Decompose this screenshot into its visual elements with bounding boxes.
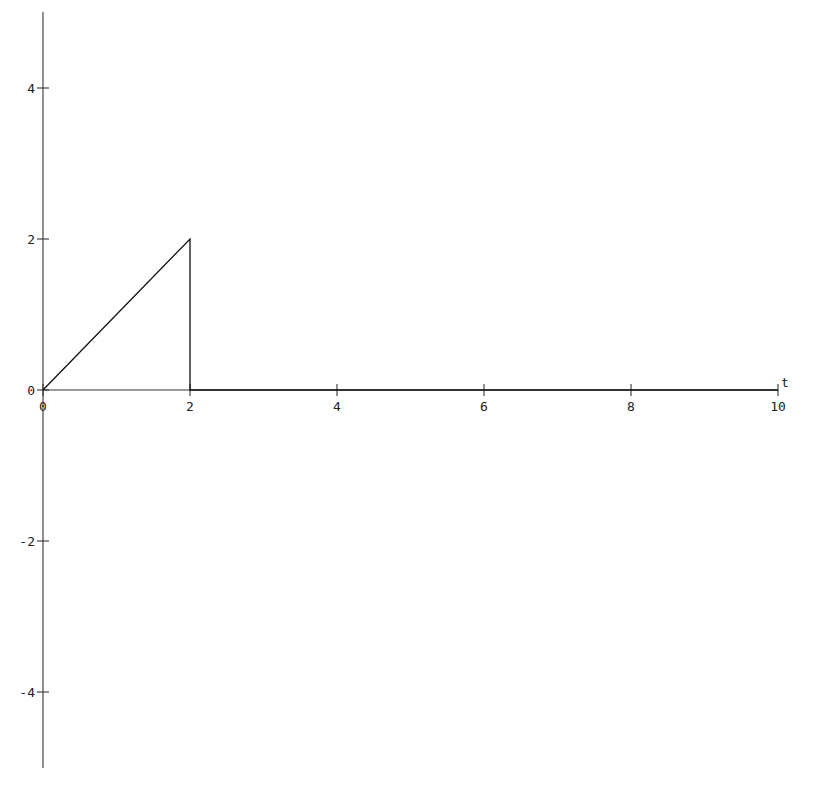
y-tick-label: -4: [19, 685, 35, 700]
x-axis-label: t: [781, 375, 789, 390]
x-tick-label: 0: [39, 399, 47, 414]
plot-canvas: 0246810420-2-4t: [0, 0, 813, 790]
x-tick-label: 10: [770, 399, 786, 414]
x-tick-label: 4: [333, 399, 341, 414]
y-tick-label: 0: [27, 383, 35, 398]
y-tick-label: -2: [19, 534, 35, 549]
x-tick-label: 2: [186, 399, 194, 414]
y-tick-label: 2: [27, 232, 35, 247]
y-tick-label: 4: [27, 81, 35, 96]
x-tick-label: 8: [627, 399, 635, 414]
x-tick-label: 6: [480, 399, 488, 414]
data-series-line: [43, 239, 778, 390]
